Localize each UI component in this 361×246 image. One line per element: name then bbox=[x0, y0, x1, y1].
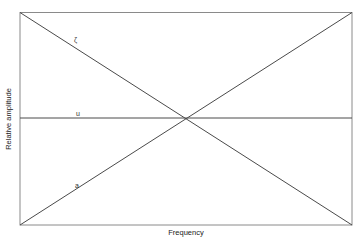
curve-a-label: a bbox=[75, 182, 79, 189]
y-axis-label: Relative amplitude bbox=[4, 88, 13, 150]
x-axis-label: Frequency bbox=[168, 228, 204, 237]
curve-u-label: u bbox=[76, 110, 80, 117]
amplitude-frequency-diagram: ζ u a Frequency Relative amplitude bbox=[0, 0, 361, 246]
curve-zeta-label: ζ bbox=[74, 36, 77, 44]
